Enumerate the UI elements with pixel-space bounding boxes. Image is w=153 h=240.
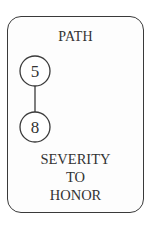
path-node-2-label: 8	[31, 118, 40, 137]
card-caption: SEVERITY TO HONOR	[7, 150, 144, 204]
path-node-1-label: 5	[31, 62, 40, 81]
path-node-1: 5	[20, 56, 50, 86]
path-node-2: 8	[20, 112, 50, 142]
caption-line-3: HONOR	[7, 186, 144, 204]
caption-line-1: SEVERITY	[7, 150, 144, 168]
caption-line-2: TO	[7, 168, 144, 186]
